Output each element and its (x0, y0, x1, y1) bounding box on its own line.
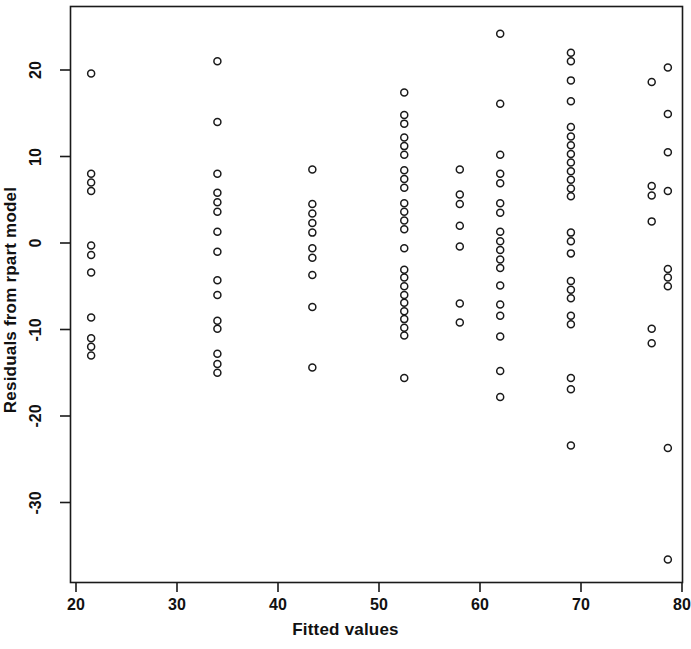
scatter-point (214, 325, 221, 332)
scatter-point (497, 228, 504, 235)
scatter-point (88, 269, 95, 276)
scatter-point (88, 242, 95, 249)
y-axis-tick-label-text: -10 (26, 318, 46, 341)
scatter-point (664, 445, 671, 452)
y-axis-tick-label: -20 (16, 406, 56, 426)
scatter-point (401, 274, 408, 281)
scatter-point (648, 182, 655, 189)
y-axis-tick-label: -10 (16, 320, 56, 340)
scatter-point (648, 192, 655, 199)
scatter-point (497, 393, 504, 400)
scatter-point (456, 319, 463, 326)
x-axis-tick-label: 30 (168, 596, 186, 614)
axis-ticks (60, 70, 682, 592)
scatter-point (401, 175, 408, 182)
scatter-point (401, 200, 408, 207)
scatter-point (497, 246, 504, 253)
y-axis-tick-label-text: -20 (26, 404, 46, 427)
scatter-point (567, 133, 574, 140)
scatter-point (497, 209, 504, 216)
scatter-point (567, 312, 574, 319)
scatter-point (567, 168, 574, 175)
scatter-point (309, 254, 316, 261)
scatter-point (567, 159, 574, 166)
scatter-point (309, 220, 316, 227)
scatter-point (664, 556, 671, 563)
scatter-point (88, 179, 95, 186)
scatter-point (456, 243, 463, 250)
plot-border (71, 7, 683, 583)
scatter-point (309, 364, 316, 371)
scatter-point (567, 98, 574, 105)
scatter-point (567, 176, 574, 183)
scatter-point (401, 111, 408, 118)
x-axis-tick-label: 40 (269, 596, 287, 614)
x-axis-tick-label: 20 (67, 596, 85, 614)
scatter-point (497, 333, 504, 340)
scatter-point (664, 265, 671, 272)
scatter-point (214, 291, 221, 298)
scatter-point (497, 265, 504, 272)
scatter-point (497, 368, 504, 375)
scatter-point (567, 386, 574, 393)
scatter-point (567, 374, 574, 381)
scatter-point (401, 217, 408, 224)
scatter-point (214, 277, 221, 284)
scatter-point (456, 222, 463, 229)
scatter-point (88, 70, 95, 77)
scatter-point (214, 189, 221, 196)
scatter-point (456, 166, 463, 173)
scatter-point (401, 283, 408, 290)
scatter-point (567, 442, 574, 449)
scatter-point (401, 266, 408, 273)
scatter-point (567, 238, 574, 245)
scatter-point (497, 180, 504, 187)
scatter-point (401, 332, 408, 339)
scatter-point (497, 301, 504, 308)
scatter-point (648, 325, 655, 332)
y-axis-tick-label: -30 (16, 493, 56, 513)
scatter-point (214, 208, 221, 215)
scatter-point (456, 201, 463, 208)
y-axis-tick-label-text: 20 (26, 61, 46, 79)
scatter-point (567, 142, 574, 149)
scatter-point (497, 282, 504, 289)
scatter-point (214, 228, 221, 235)
scatter-point (309, 272, 316, 279)
scatter-point (567, 124, 574, 131)
scatter-point (401, 245, 408, 252)
scatter-point (664, 149, 671, 156)
scatter-point (401, 308, 408, 315)
y-axis-tick-label: 10 (16, 147, 56, 167)
scatter-point (214, 58, 221, 65)
scatter-point (401, 143, 408, 150)
scatter-point (88, 343, 95, 350)
x-axis-tick-label: 70 (572, 596, 590, 614)
scatter-point (648, 79, 655, 86)
scatter-point (497, 238, 504, 245)
scatter-point (88, 352, 95, 359)
scatter-point (401, 151, 408, 158)
scatter-point (497, 170, 504, 177)
scatter-point (497, 256, 504, 263)
scatter-point (309, 201, 316, 208)
scatter-point (401, 120, 408, 127)
scatter-point (648, 340, 655, 347)
x-axis-tick-label: 80 (673, 596, 691, 614)
scatter-point (664, 188, 671, 195)
scatter-point (567, 295, 574, 302)
scatter-point (214, 118, 221, 125)
scatter-point (497, 30, 504, 37)
scatter-point (401, 226, 408, 233)
data-points (88, 30, 672, 563)
scatter-point (567, 278, 574, 285)
scatter-point (88, 252, 95, 259)
scatter-point (664, 283, 671, 290)
y-axis-tick-label: 0 (16, 233, 56, 253)
scatter-point (567, 49, 574, 56)
scatter-point (309, 245, 316, 252)
scatter-point (88, 335, 95, 342)
y-axis-tick-label-text: 0 (26, 239, 46, 248)
scatter-point (664, 64, 671, 71)
scatter-point (401, 374, 408, 381)
